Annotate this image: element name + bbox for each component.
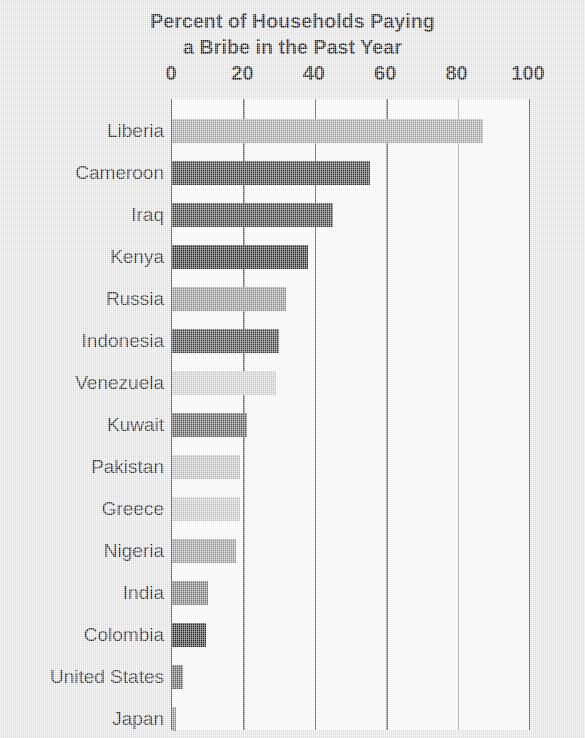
bar xyxy=(172,329,279,353)
x-axis-tick-label: 80 xyxy=(445,62,467,85)
category-label: Indonesia xyxy=(0,329,164,353)
bar-row: India xyxy=(172,572,529,614)
category-label: Russia xyxy=(0,287,164,311)
category-label: Kenya xyxy=(0,245,164,269)
bar-chart: Percent of Households Paying a Bribe in … xyxy=(0,0,585,738)
category-label: Nigeria xyxy=(0,539,164,563)
bar-row: Pakistan xyxy=(172,446,529,488)
bar xyxy=(172,119,483,143)
bar-row: Japan xyxy=(172,698,529,738)
bar-row: Nigeria xyxy=(172,530,529,572)
category-label: Kuwait xyxy=(0,413,164,437)
bar-row: Russia xyxy=(172,278,529,320)
bar-row: Greece xyxy=(172,488,529,530)
bar-row: Kuwait xyxy=(172,404,529,446)
x-axis-tick-label: 20 xyxy=(231,62,253,85)
bar xyxy=(172,623,206,647)
bar-row: Iraq xyxy=(172,194,529,236)
bar xyxy=(172,413,247,437)
bar-row: Venezuela xyxy=(172,362,529,404)
category-label: United States xyxy=(0,665,164,689)
bar xyxy=(172,707,176,731)
bar xyxy=(172,539,236,563)
category-label: Pakistan xyxy=(0,455,164,479)
category-label: Cameroon xyxy=(0,161,164,185)
bar-row: Kenya xyxy=(172,236,529,278)
x-axis-tick-label: 40 xyxy=(303,62,325,85)
bar xyxy=(172,287,286,311)
bar xyxy=(172,161,370,185)
x-axis-tick-label: 100 xyxy=(511,62,544,85)
category-label: Greece xyxy=(0,497,164,521)
category-label: Japan xyxy=(0,707,164,731)
category-label: Liberia xyxy=(0,119,164,143)
x-axis-tick-label: 60 xyxy=(374,62,396,85)
bar-row: Liberia xyxy=(172,110,529,152)
bar xyxy=(172,245,308,269)
category-label: India xyxy=(0,581,164,605)
bar xyxy=(172,203,333,227)
category-label: Venezuela xyxy=(0,371,164,395)
bar xyxy=(172,371,276,395)
chart-title-line-1: Percent of Households Paying xyxy=(0,8,585,34)
bar-row: Colombia xyxy=(172,614,529,656)
bar xyxy=(172,497,240,521)
bar-row: Indonesia xyxy=(172,320,529,362)
plot-area: LiberiaCameroonIraqKenyaRussiaIndonesiaV… xyxy=(171,99,530,730)
bar-row: Cameroon xyxy=(172,152,529,194)
bar-row: United States xyxy=(172,656,529,698)
chart-title-line-2: a Bribe in the Past Year xyxy=(0,34,585,60)
bar xyxy=(172,581,208,605)
bar xyxy=(172,455,240,479)
x-axis-tick-label: 0 xyxy=(165,62,176,85)
category-label: Iraq xyxy=(0,203,164,227)
bar xyxy=(172,665,183,689)
category-label: Colombia xyxy=(0,623,164,647)
